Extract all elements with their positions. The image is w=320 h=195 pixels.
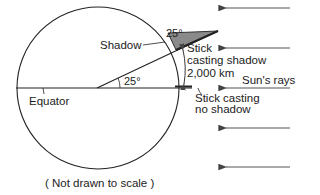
stick-angle-label: 25°: [166, 27, 183, 39]
center-angle-label: 25°: [124, 75, 141, 87]
shadow-label: Shadow: [100, 39, 142, 51]
distance-label: 2,000 km: [187, 67, 234, 79]
shadow-leader-line: [143, 42, 165, 45]
equator-tick: [43, 88, 44, 94]
stick-shadow-label-line1: Stick: [187, 42, 212, 54]
distance-arc: [183, 50, 185, 84]
suns-rays-label: Sun's rays: [242, 74, 295, 86]
center-angle-arc: [118, 78, 120, 88]
not-to-scale-note: ( Not drawn to scale ): [45, 177, 154, 189]
equator-label: Equator: [29, 95, 69, 107]
stick-shadow-label-line2: casting shadow: [187, 54, 266, 66]
stick-no-shadow-label-line2: no shadow: [195, 103, 251, 115]
